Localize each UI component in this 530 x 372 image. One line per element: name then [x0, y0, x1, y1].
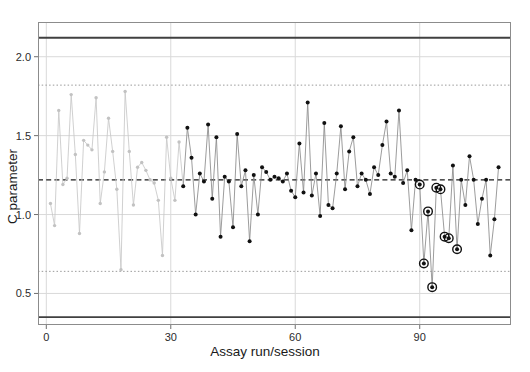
data-point[interactable] [214, 135, 218, 139]
data-point[interactable] [343, 187, 347, 191]
data-point[interactable] [82, 139, 85, 142]
data-point[interactable] [430, 285, 434, 289]
data-point[interactable] [202, 179, 206, 183]
data-point[interactable] [177, 140, 180, 143]
data-point[interactable] [289, 189, 293, 193]
data-point[interactable] [248, 239, 252, 243]
data-point[interactable] [157, 199, 160, 202]
data-point[interactable] [206, 123, 210, 127]
data-point[interactable] [243, 168, 247, 172]
data-point[interactable] [376, 173, 380, 177]
data-point[interactable] [463, 203, 467, 207]
data-point[interactable] [468, 154, 472, 158]
data-point[interactable] [136, 165, 139, 168]
data-point[interactable] [364, 178, 368, 182]
data-point[interactable] [273, 175, 277, 179]
data-point[interactable] [53, 224, 56, 227]
data-point[interactable] [314, 172, 318, 176]
data-point[interactable] [268, 178, 272, 182]
data-point[interactable] [281, 179, 285, 183]
data-point[interactable] [318, 214, 322, 218]
data-point[interactable] [472, 178, 476, 182]
data-point[interactable] [326, 203, 330, 207]
data-point[interactable] [132, 203, 135, 206]
data-point[interactable] [165, 136, 168, 139]
data-point[interactable] [397, 108, 401, 112]
data-point[interactable] [219, 235, 223, 239]
data-point[interactable] [492, 217, 496, 221]
data-point[interactable] [90, 148, 93, 151]
data-point[interactable] [103, 170, 106, 173]
data-point[interactable] [306, 100, 310, 104]
data-point[interactable] [190, 156, 194, 160]
data-point[interactable] [351, 135, 355, 139]
data-point[interactable] [459, 178, 463, 182]
data-point[interactable] [335, 172, 339, 176]
data-point[interactable] [401, 181, 405, 185]
data-point[interactable] [393, 175, 397, 179]
data-point[interactable] [223, 175, 227, 179]
data-point[interactable] [347, 149, 351, 153]
data-point[interactable] [173, 199, 176, 202]
data-point[interactable] [409, 228, 413, 232]
data-point[interactable] [302, 190, 306, 194]
data-point[interactable] [339, 124, 343, 128]
data-point[interactable] [99, 202, 102, 205]
data-point[interactable] [231, 225, 235, 229]
data-point[interactable] [169, 177, 172, 180]
data-point[interactable] [360, 172, 364, 176]
data-point[interactable] [128, 150, 131, 153]
data-point[interactable] [310, 194, 314, 198]
data-point[interactable] [438, 187, 442, 191]
data-point[interactable] [322, 121, 326, 125]
data-point[interactable] [455, 247, 459, 251]
data-point[interactable] [74, 153, 77, 156]
data-point[interactable] [372, 165, 376, 169]
data-point[interactable] [65, 177, 68, 180]
data-point[interactable] [144, 169, 147, 172]
data-point[interactable] [61, 183, 64, 186]
data-point[interactable] [422, 261, 426, 265]
data-point[interactable] [451, 164, 455, 168]
data-point[interactable] [488, 254, 492, 258]
data-point[interactable] [476, 222, 480, 226]
data-point[interactable] [355, 184, 359, 188]
data-point[interactable] [264, 170, 268, 174]
data-point[interactable] [497, 165, 501, 169]
data-point[interactable] [69, 93, 72, 96]
data-point[interactable] [57, 109, 60, 112]
data-point[interactable] [111, 150, 114, 153]
data-point[interactable] [198, 172, 202, 176]
data-point[interactable] [480, 197, 484, 201]
data-point[interactable] [185, 126, 189, 130]
data-point[interactable] [94, 96, 97, 99]
data-point[interactable] [385, 119, 389, 123]
data-point[interactable] [181, 184, 185, 188]
data-point[interactable] [405, 168, 409, 172]
data-point[interactable] [161, 254, 164, 257]
data-point[interactable] [285, 172, 289, 176]
data-point[interactable] [119, 268, 122, 271]
data-point[interactable] [380, 143, 384, 147]
data-point[interactable] [368, 192, 372, 196]
data-point[interactable] [152, 181, 155, 184]
data-point[interactable] [115, 188, 118, 191]
data-point[interactable] [426, 209, 430, 213]
data-point[interactable] [256, 213, 260, 217]
data-point[interactable] [86, 143, 89, 146]
data-point[interactable] [239, 184, 243, 188]
data-point[interactable] [293, 195, 297, 199]
data-point[interactable] [78, 232, 81, 235]
data-point[interactable] [260, 165, 264, 169]
data-point[interactable] [235, 132, 239, 136]
data-point[interactable] [49, 202, 52, 205]
data-point[interactable] [389, 172, 393, 176]
data-point[interactable] [194, 213, 198, 217]
data-point[interactable] [227, 179, 231, 183]
data-point[interactable] [252, 173, 256, 177]
data-point[interactable] [331, 206, 335, 210]
data-point[interactable] [123, 90, 126, 93]
data-point[interactable] [418, 183, 422, 187]
data-point[interactable] [484, 178, 488, 182]
data-point[interactable] [148, 178, 151, 181]
